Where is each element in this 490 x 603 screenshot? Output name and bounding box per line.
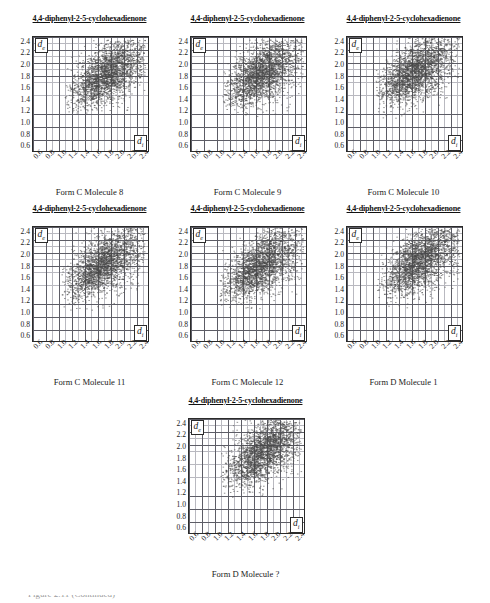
fingerprint-panel: 4,4-diphenyl-2-5-cyclohexadienone2.42.22…	[322, 14, 485, 204]
y-tick-label: 1.8	[177, 455, 187, 463]
y-tick-label: 1.6	[179, 274, 189, 282]
y-tick-label: 2.2	[21, 239, 31, 247]
y-tick-label: 1.4	[177, 478, 187, 486]
y-tick-label: 2.4	[177, 420, 187, 428]
y-tick-label: 2.0	[21, 61, 31, 69]
y-tick-label: 2.2	[179, 239, 189, 247]
fingerprint-panel: 4,4-diphenyl-2-5-cyclohexadienone2.42.22…	[166, 204, 329, 394]
plot-area: 2.42.22.01.81.61.41.21.00.80.6dedi0.60.8…	[166, 226, 329, 361]
fingerprint-panel: 4,4-diphenyl-2-5-cyclohexadienone2.42.22…	[8, 204, 171, 394]
y-tick-label: 1.0	[21, 309, 31, 317]
y-tick-label: 1.2	[177, 489, 187, 497]
y-tick-label: 0.8	[335, 131, 345, 139]
scatter-cloud	[347, 37, 462, 151]
page-footer-cropped-caption: Figure 2.11 (Continued)	[28, 595, 258, 603]
panel-title: 4,4-diphenyl-2-5-cyclohexadienone	[8, 204, 171, 213]
y-tick-label: 1.6	[335, 274, 345, 282]
y-tick-label: 1.4	[21, 286, 31, 294]
y-tick-label: 1.4	[335, 96, 345, 104]
y-axis-tick-labels: 2.42.22.01.81.61.41.21.00.80.6	[166, 36, 188, 152]
y-tick-label: 1.8	[21, 263, 31, 271]
y-tick-label: 0.6	[335, 142, 345, 150]
y-axis-label-de: de	[349, 228, 363, 244]
fingerprint-panel: 4,4-diphenyl-2-5-cyclohexadienone2.42.22…	[8, 14, 171, 204]
y-axis-tick-labels: 2.42.22.01.81.61.41.21.00.80.6	[322, 36, 344, 152]
x-axis-tick-labels: 0.60.81.01.21.41.61.82.02.22.4	[188, 535, 305, 559]
y-tick-label: 1.2	[179, 107, 189, 115]
plot-box: dedi	[188, 418, 305, 534]
x-axis-label-di: di	[134, 135, 146, 151]
scatter-cloud	[33, 37, 148, 151]
x-axis-tick-labels: 0.60.81.01.21.41.61.82.02.22.4	[32, 343, 149, 367]
x-axis-label-di: di	[292, 325, 304, 341]
panel-caption: Form C Molecule 9	[166, 187, 329, 197]
y-tick-label: 1.8	[21, 73, 31, 81]
y-tick-label: 2.0	[179, 61, 189, 69]
y-tick-label: 2.4	[335, 38, 345, 46]
y-axis-label-de: de	[191, 420, 205, 436]
x-axis-label-di: di	[448, 325, 460, 341]
figure-sheet: 4,4-diphenyl-2-5-cyclohexadienone2.42.22…	[0, 0, 490, 603]
y-axis-label-de: de	[35, 228, 49, 244]
fingerprint-panel: 4,4-diphenyl-2-5-cyclohexadienone2.42.22…	[164, 396, 327, 586]
y-tick-label: 2.0	[179, 251, 189, 259]
y-tick-label: 0.6	[21, 332, 31, 340]
x-axis-label-di: di	[290, 517, 302, 533]
y-tick-label: 2.4	[21, 38, 31, 46]
plot-area: 2.42.22.01.81.61.41.21.00.80.6dedi0.60.8…	[322, 226, 485, 361]
y-tick-label: 0.8	[335, 321, 345, 329]
y-tick-label: 0.8	[21, 131, 31, 139]
plot-box: dedi	[32, 36, 149, 152]
y-tick-label: 1.6	[335, 84, 345, 92]
y-tick-label: 0.6	[179, 332, 189, 340]
y-axis-label-de: de	[193, 38, 207, 54]
y-tick-label: 2.0	[177, 443, 187, 451]
plot-area: 2.42.22.01.81.61.41.21.00.80.6dedi0.60.8…	[8, 36, 171, 171]
panel-caption: Form C Molecule 8	[8, 187, 171, 197]
plot-area: 2.42.22.01.81.61.41.21.00.80.6dedi0.60.8…	[166, 36, 329, 171]
scatter-cloud	[189, 419, 304, 533]
plot-box: dedi	[190, 226, 307, 342]
panel-caption: Form D Molecule 1	[322, 377, 485, 387]
y-tick-label: 2.4	[179, 38, 189, 46]
y-tick-label: 1.0	[179, 119, 189, 127]
y-tick-label: 2.0	[335, 61, 345, 69]
y-axis-label-de: de	[349, 38, 363, 54]
y-tick-label: 0.8	[179, 131, 189, 139]
scatter-cloud	[191, 227, 306, 341]
scatter-cloud	[191, 37, 306, 151]
x-axis-tick-labels: 0.60.81.01.21.41.61.82.02.22.4	[190, 153, 307, 177]
y-tick-label: 1.6	[177, 466, 187, 474]
plot-box: dedi	[190, 36, 307, 152]
y-tick-label: 1.0	[21, 119, 31, 127]
panel-title: 4,4-diphenyl-2-5-cyclohexadienone	[322, 14, 485, 23]
y-axis-tick-labels: 2.42.22.01.81.61.41.21.00.80.6	[322, 226, 344, 342]
y-tick-label: 1.0	[335, 119, 345, 127]
y-tick-label: 1.2	[21, 297, 31, 305]
panel-caption: Form D Molecule ?	[164, 569, 327, 579]
scatter-cloud	[347, 227, 462, 341]
y-axis-label-de: de	[193, 228, 207, 244]
panel-title: 4,4-diphenyl-2-5-cyclohexadienone	[322, 204, 485, 213]
y-tick-label: 1.4	[179, 286, 189, 294]
y-tick-label: 2.0	[335, 251, 345, 259]
y-tick-label: 2.2	[177, 431, 187, 439]
x-axis-tick-labels: 0.60.81.01.21.41.61.82.02.22.4	[346, 343, 463, 367]
x-axis-tick-labels: 0.60.81.01.21.41.61.82.02.22.4	[32, 153, 149, 177]
y-tick-label: 1.8	[179, 73, 189, 81]
y-tick-label: 1.8	[335, 73, 345, 81]
y-tick-label: 1.4	[21, 96, 31, 104]
y-tick-label: 2.4	[335, 228, 345, 236]
y-axis-label-de: de	[35, 38, 49, 54]
y-tick-label: 0.6	[335, 332, 345, 340]
y-tick-label: 1.0	[179, 309, 189, 317]
x-axis-tick-labels: 0.60.81.01.21.41.61.82.02.22.4	[190, 343, 307, 367]
y-tick-label: 2.0	[21, 251, 31, 259]
y-axis-tick-labels: 2.42.22.01.81.61.41.21.00.80.6	[166, 226, 188, 342]
y-tick-label: 0.6	[177, 524, 187, 532]
y-tick-label: 0.8	[177, 513, 187, 521]
y-tick-label: 0.6	[179, 142, 189, 150]
y-tick-label: 1.2	[21, 107, 31, 115]
y-tick-label: 1.6	[21, 84, 31, 92]
y-tick-label: 1.8	[335, 263, 345, 271]
